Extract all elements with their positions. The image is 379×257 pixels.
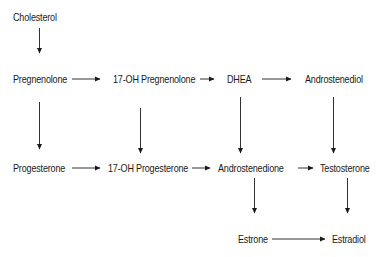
- node-testosterone: Testosterone: [320, 162, 370, 174]
- node-pregnenolone: Pregnenolone: [13, 73, 67, 85]
- node-androstenedione: Androstenedione: [218, 162, 284, 174]
- node-17oh-pregnenolone: 17-OH Pregnenolone: [113, 73, 195, 85]
- node-estradiol: Estradiol: [332, 233, 366, 245]
- arrows-layer: [0, 0, 379, 257]
- node-dhea: DHEA: [227, 73, 251, 85]
- node-17oh-progesterone: 17-OH Progesterone: [108, 162, 188, 174]
- node-androstenediol: Androstenediol: [305, 73, 363, 85]
- node-cholesterol: Cholesterol: [13, 11, 57, 23]
- node-estrone: Estrone: [238, 233, 268, 245]
- node-progesterone: Progesterone: [13, 162, 65, 174]
